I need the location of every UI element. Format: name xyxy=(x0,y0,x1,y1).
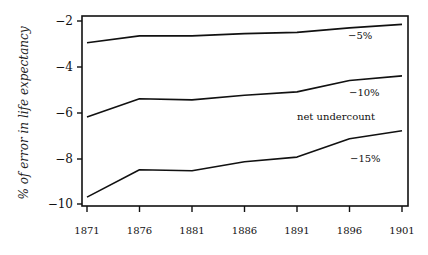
x-tick-label: 1896 xyxy=(337,225,362,236)
y-tick-label: −8 xyxy=(55,152,73,166)
x-tick-label: 1881 xyxy=(179,225,204,236)
net-undercount-label: net undercount xyxy=(297,111,375,122)
series-label-5: −5% xyxy=(348,30,372,41)
x-axis xyxy=(87,206,402,212)
y-tick-label: −6 xyxy=(55,106,73,120)
y-axis-label: % of error in life expectancy xyxy=(17,26,31,199)
x-tick-label: 1901 xyxy=(389,225,414,236)
y-tick-label: −4 xyxy=(55,60,73,74)
x-tick-label: 1876 xyxy=(127,225,152,236)
x-tick-label: 1871 xyxy=(74,225,99,236)
y-tick-label: −2 xyxy=(55,14,73,28)
series-label-10: −10% xyxy=(349,87,380,98)
x-tick-label: 1891 xyxy=(284,225,309,236)
line-chart: −2 −4 −6 −8 −10 1871 1876 1881 1886 1891… xyxy=(0,0,428,255)
x-tick-label: 1886 xyxy=(232,225,257,236)
y-tick-label: −10 xyxy=(48,197,73,211)
series-label-15: −15% xyxy=(350,153,381,164)
